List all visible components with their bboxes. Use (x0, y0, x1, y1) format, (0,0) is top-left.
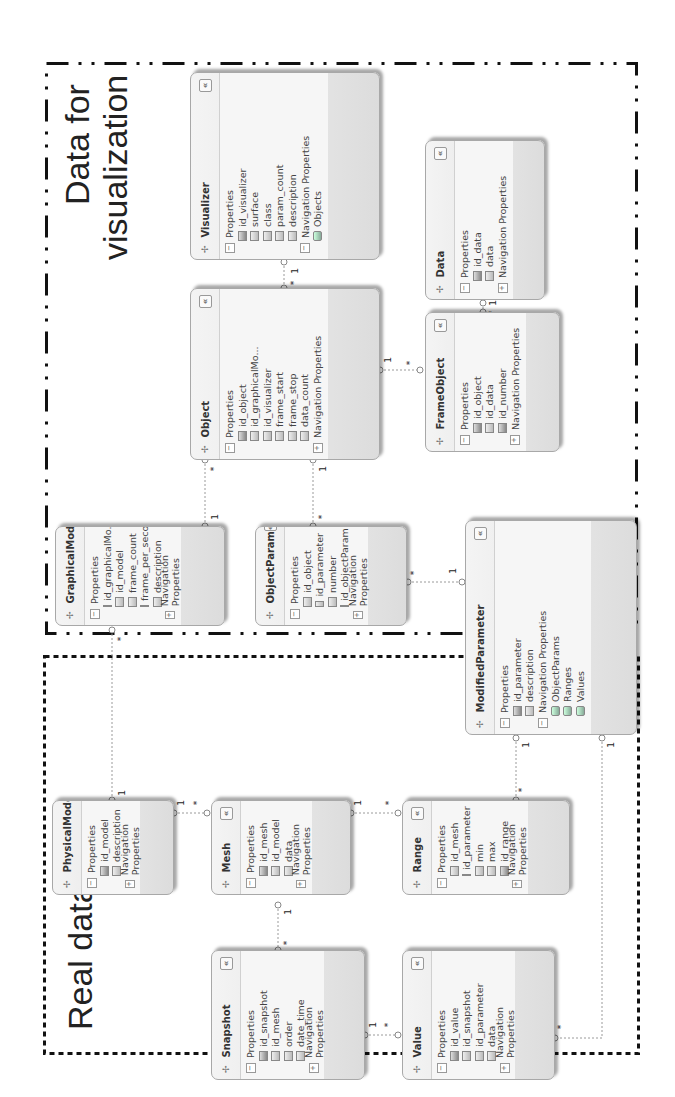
collapse-button[interactable]: « (434, 319, 447, 332)
collapse-section-icon[interactable]: − (538, 718, 548, 728)
collapse-button[interactable]: « (434, 147, 447, 160)
property-row[interactable]: max (486, 807, 499, 888)
property-row[interactable]: id_data (484, 319, 497, 445)
property-row[interactable]: id_model (98, 807, 111, 888)
property-row[interactable]: id_parameter (511, 527, 524, 728)
property-row[interactable]: frame_per_second (139, 533, 152, 619)
entity-physicalmodel[interactable]: ✢PhysicalModel«−Propertiesid_modeldescri… (52, 800, 174, 895)
entity-object[interactable]: ✢Object«−Propertiesid_objectid_graphical… (190, 288, 380, 460)
property-row[interactable]: id_snapshot (257, 957, 270, 1073)
entity-graphicalmodel[interactable]: ✢GraphicalModel«−Propertiesid_graphicalM… (55, 526, 225, 626)
navigation-properties-section[interactable]: +Navigation Properties (509, 319, 522, 445)
expand-section-icon[interactable]: + (498, 283, 508, 293)
property-row[interactable]: id_parameter (314, 533, 327, 619)
property-row[interactable]: id_visualizer (236, 79, 249, 253)
collapse-button[interactable]: « (264, 526, 277, 531)
collapse-section-icon[interactable]: − (437, 878, 447, 888)
property-row[interactable]: id_number (496, 319, 509, 445)
properties-section[interactable]: −Properties (458, 319, 471, 445)
navigation-properties-section[interactable]: +Navigation Properties (295, 807, 308, 888)
property-row[interactable]: data_count (299, 295, 312, 453)
property-row[interactable]: id_object (236, 295, 249, 453)
property-row[interactable]: frame_count (126, 533, 139, 619)
collapse-section-icon[interactable]: − (246, 878, 256, 888)
collapse-section-icon[interactable]: − (460, 283, 470, 293)
entity-visualizer[interactable]: ✢Visualizer«−Propertiesid_visualizersurf… (190, 72, 380, 260)
navigation-property-row[interactable]: Objects (312, 79, 325, 253)
properties-section[interactable]: −Properties (88, 533, 101, 619)
property-row[interactable]: id_mesh (270, 957, 283, 1073)
collapse-section-icon[interactable]: − (500, 718, 510, 728)
navigation-property-row[interactable]: ObjectParams (549, 527, 562, 728)
properties-section[interactable]: −Properties (498, 527, 511, 728)
entity-range[interactable]: ✢Range«−Propertiesid_meshid_parametermin… (402, 800, 570, 895)
properties-section[interactable]: −Properties (458, 147, 471, 293)
navigation-properties-section[interactable]: +Navigation Properties (496, 147, 509, 293)
property-row[interactable]: number (326, 533, 339, 619)
property-row[interactable]: id_parameter (461, 807, 474, 888)
property-row[interactable]: id_snapshot (461, 957, 474, 1073)
property-row[interactable]: id_graphicalMo... (101, 533, 114, 619)
navigation-properties-section[interactable]: +Navigation Properties (164, 533, 177, 619)
expand-section-icon[interactable]: + (313, 443, 323, 453)
collapse-section-icon[interactable]: − (225, 243, 235, 253)
collapse-button[interactable]: « (199, 79, 212, 92)
entity-mesh[interactable]: ✢Mesh«−Propertiesid_meshid_modeldata+Nav… (211, 800, 351, 895)
expand-section-icon[interactable]: + (125, 880, 135, 888)
collapse-section-icon[interactable]: − (90, 609, 100, 619)
collapse-button[interactable]: « (199, 295, 212, 308)
collapse-section-icon[interactable]: − (225, 443, 235, 453)
properties-section[interactable]: −Properties (223, 79, 236, 253)
collapse-section-icon[interactable]: − (300, 243, 310, 253)
property-row[interactable]: description (524, 527, 537, 728)
entity-value[interactable]: ✢Value«−Propertiesid_valueid_snapshotid_… (402, 950, 555, 1080)
properties-section[interactable]: −Properties (435, 807, 448, 888)
property-row[interactable]: id_value (448, 957, 461, 1073)
expand-section-icon[interactable]: + (510, 435, 520, 445)
property-row[interactable]: id_object (471, 319, 484, 445)
property-row[interactable]: id_object (301, 533, 314, 619)
property-row[interactable]: id_mesh (448, 807, 461, 888)
properties-section[interactable]: −Properties (85, 807, 98, 888)
entity-objectparam[interactable]: ✢ObjectParam«−Propertiesid_objectid_para… (255, 526, 407, 626)
expand-section-icon[interactable]: + (353, 611, 363, 619)
properties-section[interactable]: −Properties (223, 295, 236, 453)
properties-section[interactable]: −Properties (244, 807, 257, 888)
expand-section-icon[interactable]: + (165, 611, 175, 619)
collapse-section-icon[interactable]: − (437, 1063, 447, 1073)
collapse-section-icon[interactable]: − (290, 609, 300, 619)
property-row[interactable]: id_model (114, 533, 127, 619)
property-row[interactable]: surface (249, 79, 262, 253)
property-row[interactable]: order (282, 957, 295, 1073)
entity-frameobject[interactable]: ✢FrameObject«−Propertiesid_objectid_data… (425, 312, 560, 452)
collapse-section-icon[interactable]: − (87, 878, 97, 888)
expand-section-icon[interactable]: + (500, 1063, 510, 1073)
navigation-properties-section[interactable]: +Navigation Properties (498, 957, 511, 1073)
collapse-button[interactable]: « (411, 807, 424, 820)
property-row[interactable]: frame_start (274, 295, 287, 453)
property-row[interactable]: description (286, 79, 299, 253)
navigation-property-row[interactable]: Values (574, 527, 587, 728)
property-row[interactable]: id_graphicalMo... (249, 295, 262, 453)
entity-modifiedparameter[interactable]: ✢ModifiedParameter«−Propertiesid_paramet… (465, 520, 637, 735)
collapse-button[interactable]: « (474, 527, 487, 540)
navigation-properties-section[interactable]: +Navigation Properties (311, 295, 324, 453)
navigation-properties-section[interactable]: +Navigation Properties (511, 807, 524, 888)
collapse-section-icon[interactable]: − (460, 435, 470, 445)
property-row[interactable]: id_visualizer (261, 295, 274, 453)
property-row[interactable]: param_count (274, 79, 287, 253)
property-row[interactable]: class (261, 79, 274, 253)
expand-section-icon[interactable]: + (296, 880, 306, 888)
navigation-properties-section[interactable]: +Navigation Properties (351, 533, 364, 619)
property-row[interactable]: min (473, 807, 486, 888)
navigation-properties-section[interactable]: −Navigation Properties (536, 527, 549, 728)
entity-data[interactable]: ✢Data«−Propertiesid_datadata+Navigation … (425, 140, 545, 300)
navigation-property-row[interactable]: Ranges (562, 527, 575, 728)
navigation-properties-section[interactable]: +Navigation Properties (123, 807, 136, 888)
collapse-section-icon[interactable]: − (246, 1063, 256, 1073)
property-row[interactable]: frame_stop (286, 295, 299, 453)
collapse-button[interactable]: « (220, 807, 233, 820)
expand-section-icon[interactable]: + (512, 880, 522, 888)
property-row[interactable]: id_data (471, 147, 484, 293)
property-row[interactable]: id_model (270, 807, 283, 888)
